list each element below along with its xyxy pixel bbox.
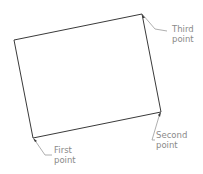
- label-second-point: Second point: [156, 130, 187, 150]
- label-third-line2: point: [172, 34, 194, 44]
- label-third-point: Third point: [172, 24, 194, 44]
- arrowhead-first: [33, 138, 37, 142]
- label-third-line1: Third: [172, 24, 194, 34]
- leader-third-point: [143, 15, 167, 31]
- label-second-line2: point: [156, 140, 187, 150]
- label-first-line2: point: [54, 155, 76, 165]
- leader-first-point: [34, 139, 52, 155]
- rotated-rectangle: [14, 14, 161, 138]
- label-second-line1: Second: [156, 130, 187, 140]
- label-first-point: First point: [54, 145, 76, 165]
- label-first-line1: First: [54, 145, 76, 155]
